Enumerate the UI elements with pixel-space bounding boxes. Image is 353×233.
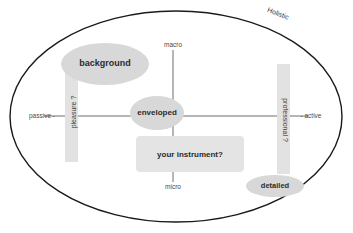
diagram-canvas: Holistic macro micro passive - - active … (0, 0, 353, 233)
axis-label-macro: macro (164, 41, 182, 48)
axis-label-micro: micro (165, 183, 181, 190)
blob-label-enveloped: enveloped (137, 108, 177, 117)
blob-label-detailed: detailed (261, 181, 290, 190)
holistic-title-label: Holistic (266, 6, 290, 21)
blob-label-background: background (79, 58, 131, 68)
axis-label-active: - active (301, 112, 322, 119)
bar-label-professional: professional ? (281, 98, 289, 142)
blob-label-your-instrument: your instrument? (157, 150, 223, 159)
bar-label-pleasure: pleasure ? (70, 96, 78, 129)
axis-label-passive: passive - (29, 112, 55, 120)
